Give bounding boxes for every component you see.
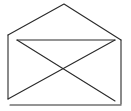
diagonal-fold-right <box>17 40 115 101</box>
diagonal-fold-left <box>8 40 115 99</box>
envelope-open-icon <box>0 0 131 111</box>
envelope-flap <box>8 4 121 40</box>
